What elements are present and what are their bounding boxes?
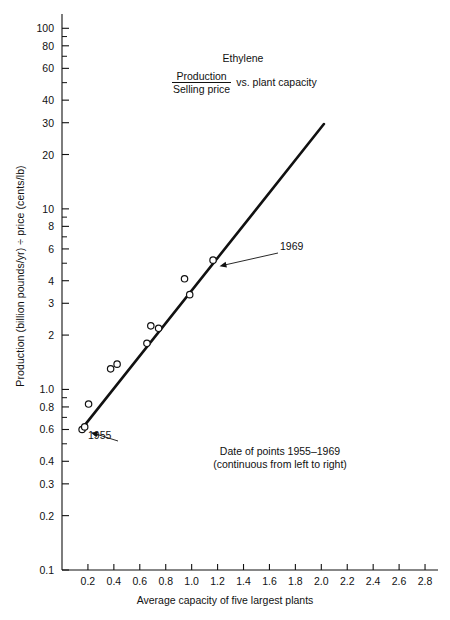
x-tick-label: 2.8 bbox=[405, 576, 445, 586]
y-tick-label: 6 bbox=[8, 244, 54, 254]
chart-title-block: Ethylene Production Selling price vs. pl… bbox=[150, 52, 380, 95]
data-point-marker bbox=[81, 424, 87, 430]
y-tick-label: 0.8 bbox=[8, 402, 54, 412]
y-tick-label: 10 bbox=[8, 204, 54, 214]
data-point-marker bbox=[155, 325, 161, 331]
data-point-marker bbox=[187, 291, 193, 297]
y-tick-label: 100 bbox=[8, 23, 54, 33]
data-point-marker bbox=[107, 366, 113, 372]
y-tick-label: 20 bbox=[8, 150, 54, 160]
title-fraction-numerator: Production bbox=[172, 70, 231, 83]
chart-title: Ethylene bbox=[168, 52, 318, 65]
data-point-marker bbox=[148, 323, 154, 329]
y-tick-label: 0.6 bbox=[8, 424, 54, 434]
title-fraction: Production Selling price bbox=[172, 70, 231, 95]
title-fraction-denominator: Selling price bbox=[172, 83, 231, 95]
y-tick-label: 0.1 bbox=[8, 565, 54, 575]
y-tick-label: 80 bbox=[8, 41, 54, 51]
chart-subtitle: Production Selling price vs. plant capac… bbox=[172, 70, 380, 95]
data-point-marker bbox=[114, 361, 120, 367]
y-tick-label: 0.2 bbox=[8, 511, 54, 521]
annotation-arrow-1969-leader bbox=[225, 253, 278, 265]
trend-line bbox=[81, 124, 324, 430]
y-tick-label: 2 bbox=[8, 330, 54, 340]
data-point-marker bbox=[210, 257, 216, 263]
chart-note-line-1: Date of points 1955–1969 bbox=[155, 445, 405, 458]
annotation-label-1969: 1969 bbox=[280, 240, 303, 252]
y-tick-label: 1.0 bbox=[8, 384, 54, 394]
chart-figure: Production (billion pounds/yr) ÷ price (… bbox=[0, 0, 450, 620]
y-tick-label: 0.3 bbox=[8, 479, 54, 489]
y-tick-label: 0.4 bbox=[8, 456, 54, 466]
y-tick-label: 60 bbox=[8, 63, 54, 73]
annotation-arrow-1969-head bbox=[220, 262, 227, 268]
y-tick-label: 3 bbox=[8, 298, 54, 308]
chart-note-line-2: (continuous from left to right) bbox=[155, 458, 405, 471]
y-tick-label: 30 bbox=[8, 118, 54, 128]
title-suffix: vs. plant capacity bbox=[236, 76, 317, 89]
y-tick-label: 40 bbox=[8, 95, 54, 105]
data-point-marker bbox=[85, 401, 91, 407]
y-tick-label: 4 bbox=[8, 276, 54, 286]
chart-note: Date of points 1955–1969 (continuous fro… bbox=[155, 445, 405, 471]
y-tick-label: 8 bbox=[8, 221, 54, 231]
data-point-marker bbox=[144, 340, 150, 346]
data-point-marker bbox=[181, 276, 187, 282]
x-axis-title: Average capacity of five largest plants bbox=[0, 594, 450, 606]
annotation-label-1955: 1955 bbox=[88, 429, 111, 441]
